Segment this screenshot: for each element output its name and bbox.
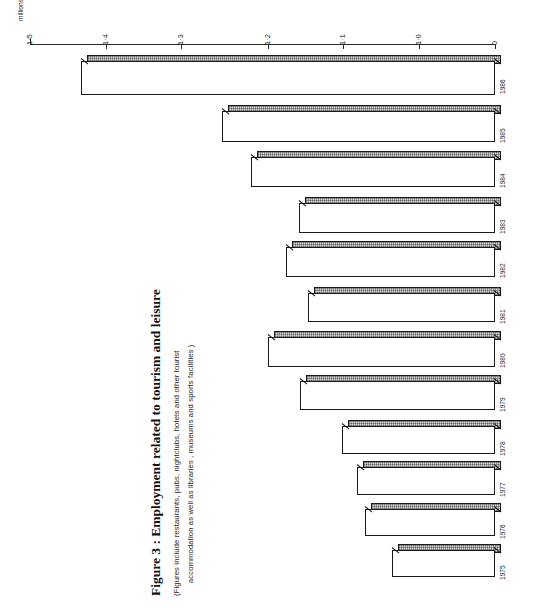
- bar-front-face: [81, 61, 495, 95]
- category-label-1986: 1986: [499, 79, 506, 94]
- category-label-1985: 1985: [499, 128, 506, 143]
- bar-1979: [300, 375, 495, 410]
- category-label-1983: 1983: [499, 219, 506, 234]
- bar-front-face: [365, 509, 495, 536]
- category-label-1978: 1978: [499, 441, 506, 456]
- category-label-1976: 1976: [499, 524, 506, 539]
- axis-unit-label: millions: [17, 0, 24, 21]
- axis-tick-label: 1·2: [263, 34, 272, 45]
- axis-tick-label: 1·1: [338, 34, 347, 45]
- bar-front-face: [308, 293, 495, 322]
- category-label-1980: 1980: [499, 353, 506, 368]
- bar-front-face: [299, 203, 495, 233]
- bar-front-face: [268, 337, 495, 367]
- bar-front-face: [342, 426, 495, 454]
- category-label-1982: 1982: [499, 263, 506, 278]
- bar-1978: [342, 420, 495, 454]
- bar-1977: [357, 461, 495, 495]
- axis-tick-label: 1·3: [176, 34, 185, 45]
- bar-front-face: [392, 550, 495, 577]
- bar-1982: [286, 241, 495, 277]
- axis-tick-label: 1·4: [101, 34, 110, 45]
- category-label-1977: 1977: [499, 482, 506, 497]
- bar-1981: [308, 287, 495, 322]
- axis-tick-label: 1·5: [25, 34, 34, 45]
- axis-tick-label: 0: [490, 41, 499, 45]
- bar-1983: [299, 197, 495, 233]
- bar-front-face: [222, 111, 495, 142]
- axis-tick-label: 1·0: [414, 34, 423, 45]
- category-label-1984: 1984: [499, 173, 506, 188]
- bar-1986: [81, 55, 495, 95]
- bar-front-face: [251, 157, 495, 187]
- bar-front-face: [286, 247, 495, 277]
- bar-1984: [251, 151, 495, 187]
- bar-front-face: [300, 381, 495, 410]
- bar-front-face: [357, 467, 495, 495]
- bar-1976: [365, 503, 495, 536]
- category-label-1981: 1981: [499, 309, 506, 324]
- bar-1975: [392, 544, 495, 577]
- bar-1980: [268, 331, 495, 367]
- chart-canvas: millions 1·51·41·31·21·11·00 19861985198…: [0, 0, 545, 608]
- category-label-1975: 1975: [499, 565, 506, 580]
- bar-1985: [222, 105, 495, 142]
- category-label-1979: 1979: [499, 397, 506, 412]
